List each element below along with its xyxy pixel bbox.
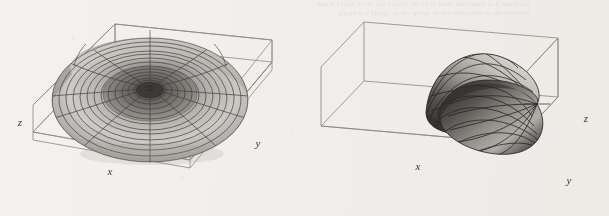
right-axis-label-x: x [415,160,421,172]
right-surface-panel: x z y [304,0,609,216]
left-axis-label-y: y [255,137,261,149]
figure-page: nuoitsnu iloe jimu taho tumi te hicnit l… [0,0,609,216]
right-surface-mesh [426,47,550,156]
right-axis-label-z: z [583,112,589,124]
left-surface-mesh [52,30,248,165]
left-surface-panel: z x y [0,0,305,216]
left-axis-label-x: x [107,165,113,177]
left-axis-label-z: z [17,116,23,128]
right-axis-label-y: y [566,174,572,186]
